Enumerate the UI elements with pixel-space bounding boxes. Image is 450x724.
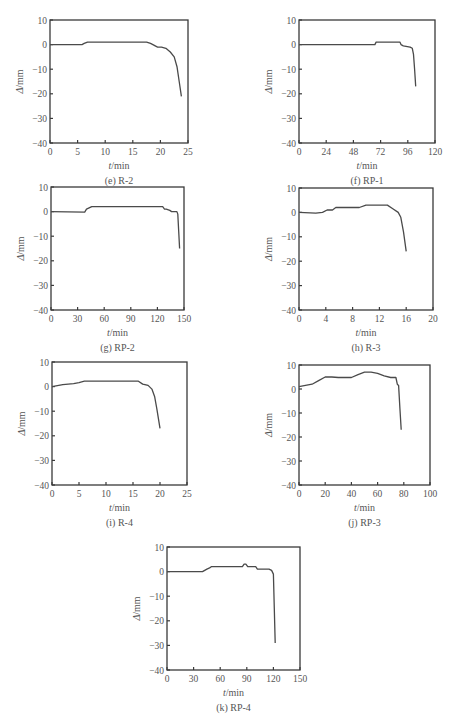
y-tick-label: 0 [291,40,296,50]
x-tick-label: 10 [101,489,111,499]
x-tick-label: 60 [99,314,109,324]
x-tick-label: 96 [403,147,413,157]
chart-panel-h: 100−10−20−30−40048121620t/minΔ/mm(h) R-3 [259,168,450,362]
y-tick-label: 0 [291,208,296,218]
y-tick-label: −20 [281,257,296,267]
data-line-rp-3 [299,372,401,430]
x-tick-label: 80 [399,489,409,499]
chart-caption: (k) RP-4 [216,702,251,714]
plot-frame [299,365,430,485]
x-tick-label: 120 [266,674,281,684]
y-axis-label: Δ/mm [15,236,26,261]
y-tick-label: 10 [40,358,50,368]
x-tick-label: 12 [375,314,385,324]
x-tick-label: 5 [75,147,80,157]
x-tick-label: 72 [376,147,386,157]
y-tick-label: −10 [33,232,48,242]
x-tick-label: 120 [428,147,443,157]
plot-frame [167,547,300,670]
y-tick-label: 10 [287,184,297,194]
y-axis-label: Δ/mm [131,596,142,621]
x-tick-label: 24 [321,147,331,157]
x-axis-label: t/min [354,502,375,513]
y-tick-label: −40 [32,139,47,149]
y-tick-label: −10 [281,65,296,75]
y-axis-label: Δ/mm [14,69,25,94]
chart-panel-i: 100−10−20−30−400510152025t/minΔ/mm(i) R-… [10,342,207,537]
y-tick-label: 0 [42,40,47,50]
y-tick-label: 0 [44,382,49,392]
y-tick-label: −40 [149,666,164,676]
data-line-r-2 [50,42,181,96]
y-tick-label: 0 [159,567,164,577]
x-tick-label: 15 [128,489,138,499]
y-tick-label: −30 [34,456,49,466]
y-tick-label: −10 [281,409,296,419]
x-tick-label: 0 [297,147,302,157]
x-tick-label: 0 [297,489,302,499]
plot-frame [50,20,188,143]
y-tick-label: −40 [281,139,296,149]
y-tick-label: −30 [281,281,296,291]
chart-panel-g: 100−10−20−30−400306090120150t/minΔ/mm(g)… [10,167,204,362]
y-tick-label: −10 [34,407,49,417]
x-tick-label: 16 [401,314,411,324]
x-axis-label: t/min [107,327,128,338]
x-tick-label: 120 [150,314,165,324]
x-tick-label: 20 [156,147,166,157]
y-axis-label: Δ/mm [263,69,274,94]
x-tick-label: 0 [297,314,302,324]
x-tick-label: 0 [48,147,53,157]
x-tick-label: 20 [155,489,165,499]
x-axis-label: t/min [355,327,376,338]
data-line-rp-2 [51,207,180,249]
y-axis-label: Δ/mm [263,413,274,438]
y-tick-label: −30 [33,281,48,291]
x-tick-label: 15 [128,147,138,157]
y-tick-label: −10 [149,592,164,602]
x-tick-label: 0 [50,489,55,499]
y-tick-label: −40 [281,481,296,491]
y-tick-label: −20 [281,433,296,443]
x-tick-label: 30 [189,674,199,684]
y-tick-label: −20 [281,89,296,99]
y-tick-label: 0 [291,385,296,395]
y-tick-label: −30 [149,641,164,651]
x-tick-label: 8 [350,314,355,324]
x-tick-label: 20 [428,314,438,324]
x-tick-label: 40 [347,489,357,499]
y-tick-label: −30 [281,114,296,124]
y-tick-label: −40 [34,481,49,491]
x-tick-label: 0 [49,314,54,324]
x-tick-label: 5 [77,489,82,499]
x-tick-label: 150 [177,314,192,324]
x-tick-label: 90 [242,674,252,684]
x-axis-label: t/min [223,687,244,698]
data-line-rp-1 [299,42,416,86]
y-tick-label: 10 [287,361,297,371]
chart-caption: (j) RP-3 [348,517,381,529]
y-tick-label: −40 [33,306,48,316]
y-tick-label: 10 [155,543,165,553]
y-tick-label: −20 [33,256,48,266]
chart-panel-e: 100−10−20−30−400510152025t/minΔ/mm(e) R-… [10,0,208,195]
x-tick-label: 25 [183,147,193,157]
x-tick-label: 20 [320,489,330,499]
y-tick-label: −30 [281,457,296,467]
y-tick-label: 10 [287,16,297,26]
y-tick-label: −10 [281,232,296,242]
x-tick-label: 60 [215,674,225,684]
y-tick-label: −20 [32,89,47,99]
y-tick-label: −30 [32,114,47,124]
plot-frame [299,188,433,310]
x-tick-label: 150 [293,674,308,684]
data-line-rp-4 [167,564,275,643]
plot-frame [299,20,435,143]
y-tick-label: −10 [32,65,47,75]
y-axis-label: Δ/mm [16,411,27,436]
x-tick-label: 60 [373,489,383,499]
plot-frame [52,362,187,485]
data-line-r-3 [299,205,406,251]
x-tick-label: 30 [73,314,83,324]
y-tick-label: −20 [149,616,164,626]
